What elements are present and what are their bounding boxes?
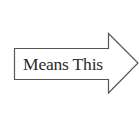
arrow-label: Means This xyxy=(16,51,110,77)
diagram-canvas: Means This xyxy=(0,0,139,117)
